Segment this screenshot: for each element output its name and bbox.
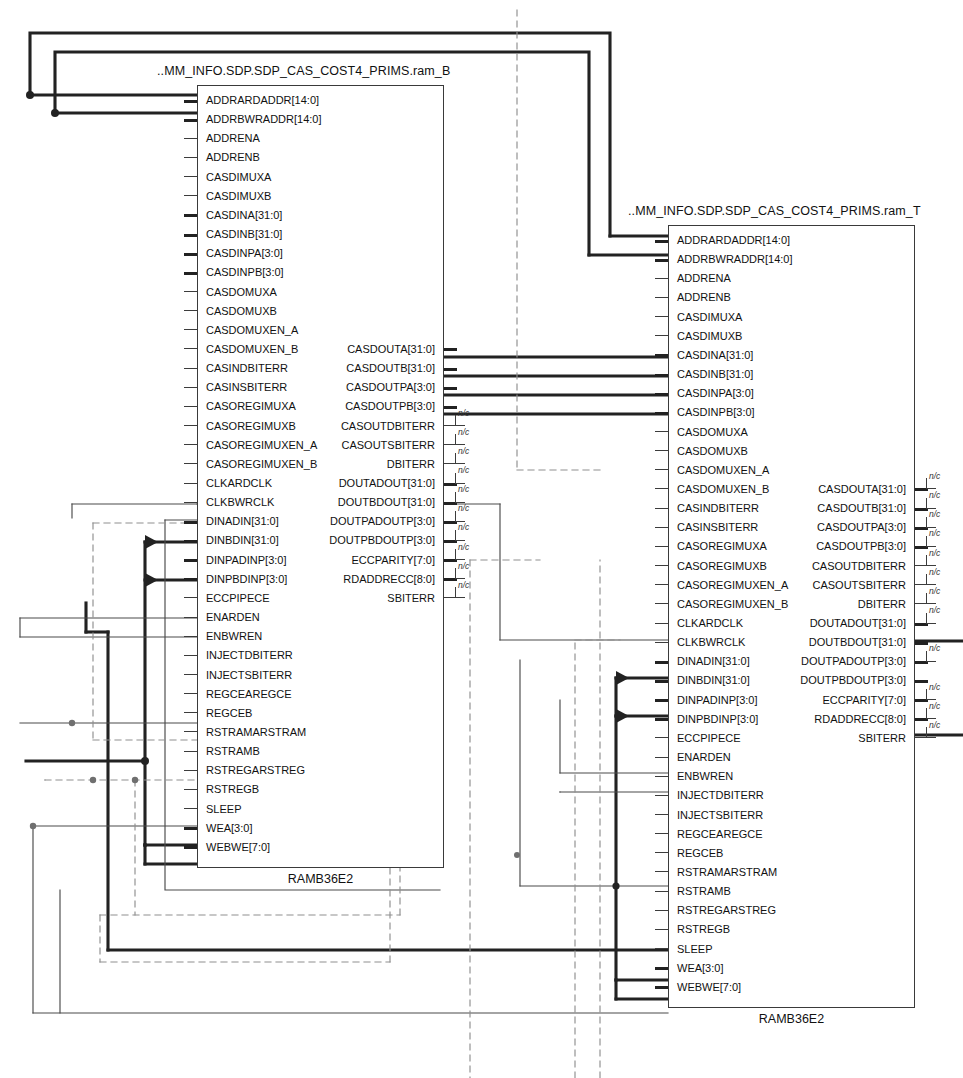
input-pin-ECCPIPECE[interactable]: ECCPIPECE	[677, 729, 741, 748]
output-pin-CASDOUTPB30[interactable]: CASDOUTPB[3:0]	[345, 397, 435, 416]
input-pin-DINPBDINP30[interactable]: DINPBDINP[3:0]	[677, 710, 758, 729]
input-pin-CASDOMUXB[interactable]: CASDOMUXB	[677, 442, 748, 461]
output-pin-DOUTBDOUT310[interactable]: DOUTBDOUT[31:0]	[338, 493, 435, 512]
input-pin-CASINSBITERR[interactable]: CASINSBITERR	[677, 518, 758, 537]
input-pin-CASOREGIMUXA[interactable]: CASOREGIMUXA	[677, 537, 767, 556]
input-pin-DINPADINP30[interactable]: DINPADINP[3:0]	[206, 551, 287, 570]
output-pin-CASDOUTPA30[interactable]: CASDOUTPA[3:0]	[817, 518, 906, 537]
output-pin-CASDOUTPB30[interactable]: CASDOUTPB[3:0]	[816, 537, 906, 556]
input-pin-ENARDEN[interactable]: ENARDEN	[677, 748, 731, 767]
output-pin-CASOUTDBITERR[interactable]: CASOUTDBITERR	[341, 417, 435, 436]
input-pin-CLKBWRCLK[interactable]: CLKBWRCLK	[677, 633, 745, 652]
output-pin-CASDOUTA310[interactable]: CASDOUTA[31:0]	[818, 480, 906, 499]
input-pin-CASOREGIMUXB[interactable]: CASOREGIMUXB	[677, 557, 767, 576]
input-pin-CASOREGIMUXEN_A[interactable]: CASOREGIMUXEN_A	[206, 436, 317, 455]
input-pin-WEBWE70[interactable]: WEBWE[7:0]	[206, 838, 270, 857]
output-pin-DOUTPADOUTP30[interactable]: DOUTPADOUTP[3:0]	[801, 652, 906, 671]
input-pin-CASDOMUXA[interactable]: CASDOMUXA	[206, 283, 277, 302]
input-pin-INJECTDBITERR[interactable]: INJECTDBITERR	[677, 786, 764, 805]
output-pin-CASOUTSBITERR[interactable]: CASOUTSBITERR	[341, 436, 435, 455]
input-pin-INJECTSBITERR[interactable]: INJECTSBITERR	[677, 806, 763, 825]
input-pin-ADDRARDADDR140[interactable]: ADDRARDADDR[14:0]	[206, 91, 319, 110]
ram-block-ram_B[interactable]: ADDRARDADDR[14:0]ADDRBWRADDR[14:0]ADDREN…	[197, 85, 444, 868]
input-pin-INJECTSBITERR[interactable]: INJECTSBITERR	[206, 666, 292, 685]
input-pin-INJECTDBITERR[interactable]: INJECTDBITERR	[206, 646, 293, 665]
input-pin-ECCPIPECE[interactable]: ECCPIPECE	[206, 589, 270, 608]
input-pin-ADDRENB[interactable]: ADDRENB	[677, 288, 731, 307]
input-pin-CASDINPB30[interactable]: CASDINPB[3:0]	[206, 263, 284, 282]
input-pin-CASDOMUXB[interactable]: CASDOMUXB	[206, 302, 277, 321]
input-pin-CLKBWRCLK[interactable]: CLKBWRCLK	[206, 493, 274, 512]
output-pin-CASDOUTB310[interactable]: CASDOUTB[31:0]	[817, 499, 906, 518]
input-pin-DINADIN310[interactable]: DINADIN[31:0]	[206, 512, 279, 531]
input-pin-CASDOMUXEN_A[interactable]: CASDOMUXEN_A	[206, 321, 298, 340]
input-pin-CASOREGIMUXEN_B[interactable]: CASOREGIMUXEN_B	[677, 595, 788, 614]
output-pin-ECCPARITY70[interactable]: ECCPARITY[7:0]	[351, 551, 435, 570]
input-pin-WEA30[interactable]: WEA[3:0]	[677, 959, 723, 978]
input-pin-RSTRAMB[interactable]: RSTRAMB	[206, 742, 260, 761]
input-pin-CASINDBITERR[interactable]: CASINDBITERR	[206, 359, 288, 378]
input-pin-ADDRARDADDR140[interactable]: ADDRARDADDR[14:0]	[677, 231, 790, 250]
input-pin-CASDIMUXA[interactable]: CASDIMUXA	[677, 308, 742, 327]
input-pin-RSTRAMB[interactable]: RSTRAMB	[677, 882, 731, 901]
input-pin-CASINSBITERR[interactable]: CASINSBITERR	[206, 378, 287, 397]
output-pin-CASDOUTPA30[interactable]: CASDOUTPA[3:0]	[346, 378, 435, 397]
input-pin-RSTREGB[interactable]: RSTREGB	[677, 920, 730, 939]
input-pin-DINADIN310[interactable]: DINADIN[31:0]	[677, 652, 750, 671]
input-pin-ADDRENB[interactable]: ADDRENB	[206, 148, 260, 167]
input-pin-SLEEP[interactable]: SLEEP	[677, 940, 712, 959]
input-pin-CASOREGIMUXEN_B[interactable]: CASOREGIMUXEN_B	[206, 455, 317, 474]
output-pin-CASOUTSBITERR[interactable]: CASOUTSBITERR	[812, 576, 906, 595]
input-pin-REGCEB[interactable]: REGCEB	[677, 844, 723, 863]
input-pin-CLKARDCLK[interactable]: CLKARDCLK	[206, 474, 272, 493]
input-pin-CLKARDCLK[interactable]: CLKARDCLK	[677, 614, 743, 633]
input-pin-ENARDEN[interactable]: ENARDEN	[206, 608, 260, 627]
input-pin-CASDOMUXEN_A[interactable]: CASDOMUXEN_A	[677, 461, 769, 480]
input-pin-WEBWE70[interactable]: WEBWE[7:0]	[677, 978, 741, 997]
input-pin-RSTREGB[interactable]: RSTREGB	[206, 780, 259, 799]
input-pin-CASDINB310[interactable]: CASDINB[31:0]	[206, 225, 282, 244]
input-pin-CASOREGIMUXEN_A[interactable]: CASOREGIMUXEN_A	[677, 576, 788, 595]
input-pin-RSTREGARSTREG[interactable]: RSTREGARSTREG	[206, 761, 305, 780]
output-pin-SBITERR[interactable]: SBITERR	[858, 729, 906, 748]
input-pin-CASOREGIMUXB[interactable]: CASOREGIMUXB	[206, 417, 296, 436]
input-pin-SLEEP[interactable]: SLEEP	[206, 800, 241, 819]
input-pin-ENBWREN[interactable]: ENBWREN	[206, 627, 262, 646]
output-pin-RDADDRECC80[interactable]: RDADDRECC[8:0]	[343, 570, 435, 589]
input-pin-DINPBDINP30[interactable]: DINPBDINP[3:0]	[206, 570, 287, 589]
input-pin-CASDINA310[interactable]: CASDINA[31:0]	[206, 206, 282, 225]
input-pin-WEA30[interactable]: WEA[3:0]	[206, 819, 252, 838]
input-pin-CASDINA310[interactable]: CASDINA[31:0]	[677, 346, 753, 365]
output-pin-DOUTADOUT310[interactable]: DOUTADOUT[31:0]	[810, 614, 906, 633]
input-pin-REGCEAREGCE[interactable]: REGCEAREGCE	[677, 825, 763, 844]
input-pin-REGCEAREGCE[interactable]: REGCEAREGCE	[206, 685, 292, 704]
output-pin-DOUTPBDOUTP30[interactable]: DOUTPBDOUTP[3:0]	[329, 531, 435, 550]
input-pin-RSTRAMARSTRAM[interactable]: RSTRAMARSTRAM	[677, 863, 777, 882]
input-pin-CASDIMUXA[interactable]: CASDIMUXA	[206, 168, 271, 187]
output-pin-ECCPARITY70[interactable]: ECCPARITY[7:0]	[822, 691, 906, 710]
output-pin-DOUTPBDOUTP30[interactable]: DOUTPBDOUTP[3:0]	[800, 671, 906, 690]
input-pin-CASDIMUXB[interactable]: CASDIMUXB	[206, 187, 271, 206]
input-pin-CASDIMUXB[interactable]: CASDIMUXB	[677, 327, 742, 346]
output-pin-RDADDRECC80[interactable]: RDADDRECC[8:0]	[814, 710, 906, 729]
input-pin-CASDOMUXA[interactable]: CASDOMUXA	[677, 423, 748, 442]
output-pin-CASOUTDBITERR[interactable]: CASOUTDBITERR	[812, 557, 906, 576]
input-pin-ENBWREN[interactable]: ENBWREN	[677, 767, 733, 786]
output-pin-CASDOUTB310[interactable]: CASDOUTB[31:0]	[346, 359, 435, 378]
input-pin-RSTRAMARSTRAM[interactable]: RSTRAMARSTRAM	[206, 723, 306, 742]
input-pin-DINPADINP30[interactable]: DINPADINP[3:0]	[677, 691, 758, 710]
input-pin-CASDINPA30[interactable]: CASDINPA[3:0]	[677, 384, 754, 403]
input-pin-RSTREGARSTREG[interactable]: RSTREGARSTREG	[677, 901, 776, 920]
input-pin-CASDINPB30[interactable]: CASDINPB[3:0]	[677, 403, 755, 422]
output-pin-SBITERR[interactable]: SBITERR	[387, 589, 435, 608]
input-pin-CASINDBITERR[interactable]: CASINDBITERR	[677, 499, 759, 518]
output-pin-DBITERR[interactable]: DBITERR	[858, 595, 906, 614]
input-pin-ADDRENA[interactable]: ADDRENA	[206, 129, 260, 148]
output-pin-DOUTPADOUTP30[interactable]: DOUTPADOUTP[3:0]	[330, 512, 435, 531]
input-pin-CASDINPA30[interactable]: CASDINPA[3:0]	[206, 244, 283, 263]
input-pin-ADDRBWRADDR140[interactable]: ADDRBWRADDR[14:0]	[206, 110, 322, 129]
input-pin-CASDOMUXEN_B[interactable]: CASDOMUXEN_B	[677, 480, 769, 499]
input-pin-ADDRENA[interactable]: ADDRENA	[677, 269, 731, 288]
output-pin-DOUTBDOUT310[interactable]: DOUTBDOUT[31:0]	[809, 633, 906, 652]
input-pin-CASOREGIMUXA[interactable]: CASOREGIMUXA	[206, 397, 296, 416]
